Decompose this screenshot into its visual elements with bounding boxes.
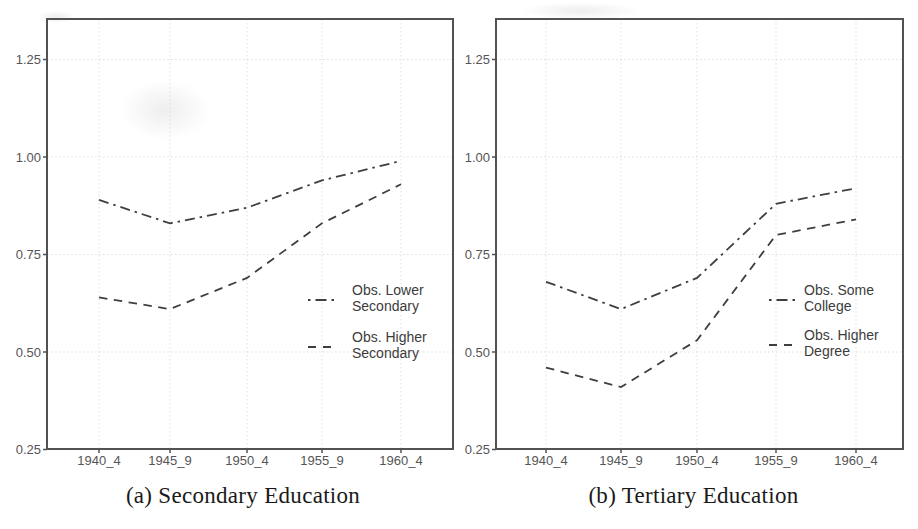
y-axis-tick-label: 1.25 (465, 52, 490, 67)
x-axis-tick-label: 1940_4 (524, 453, 567, 468)
plot-frame (47, 19, 453, 449)
series-line-dashdot (99, 161, 401, 223)
legend-label: Obs. Lower (352, 282, 424, 298)
x-axis-tick-label: 1960_4 (379, 453, 422, 468)
x-axis-tick-label: 1945_9 (148, 453, 191, 468)
x-axis-tick-label: 1955_9 (300, 453, 343, 468)
y-axis-tick-label: 0.50 (16, 345, 41, 360)
x-axis-tick-label: 1940_4 (77, 453, 120, 468)
y-axis-tick-label: 1.25 (16, 52, 41, 67)
legend-label: Obs. Higher (804, 327, 879, 343)
chart-tertiary-education: 0.250.500.751.001.251940_41945_91950_419… (459, 0, 918, 475)
y-axis-tick-label: 1.00 (465, 150, 490, 165)
caption-secondary-education: (a) Secondary Education (40, 483, 446, 509)
legend-label: Obs. Some (804, 282, 874, 298)
y-axis-tick-label: 0.50 (465, 345, 490, 360)
x-axis-tick-label: 1945_9 (599, 453, 642, 468)
y-axis-tick-label: 0.25 (16, 442, 41, 457)
caption-tertiary-education: (b) Tertiary Education (490, 483, 897, 509)
y-axis-tick-label: 0.75 (465, 247, 490, 262)
y-axis-tick-label: 0.25 (465, 442, 490, 457)
y-axis-tick-label: 0.75 (16, 247, 41, 262)
legend-label: Obs. Higher (352, 329, 427, 345)
chart-secondary-education: 0.250.500.751.001.251940_41945_91950_419… (0, 0, 459, 475)
legend-label: Degree (804, 343, 850, 359)
y-axis-tick-label: 1.00 (16, 150, 41, 165)
legend-label: Secondary (352, 345, 419, 361)
legend-label: College (804, 298, 852, 314)
legend-label: Secondary (352, 298, 419, 314)
x-axis-tick-label: 1950_4 (675, 453, 718, 468)
figure-page: 0.250.500.751.001.251940_41945_91950_419… (0, 0, 918, 529)
x-axis-tick-label: 1955_9 (754, 453, 797, 468)
x-axis-tick-label: 1950_4 (225, 453, 268, 468)
plot-frame (496, 19, 903, 449)
x-axis-tick-label: 1960_4 (834, 453, 877, 468)
